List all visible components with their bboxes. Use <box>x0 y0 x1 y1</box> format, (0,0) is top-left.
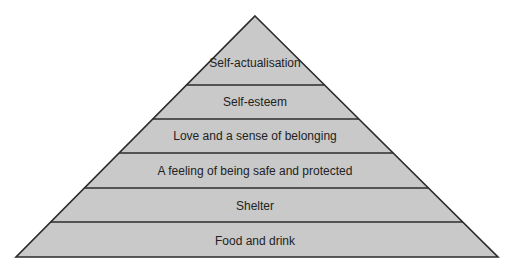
level-label-shelter: Shelter <box>236 199 274 213</box>
hierarchy-pyramid: Self-actualisation Self-esteem Love and … <box>0 0 516 274</box>
level-label-love-belonging: Love and a sense of belonging <box>173 129 336 143</box>
level-label-food-drink: Food and drink <box>215 234 296 248</box>
level-label-safety: A feeling of being safe and protected <box>158 164 353 178</box>
level-label-self-esteem: Self-esteem <box>223 95 287 109</box>
level-label-self-actualisation: Self-actualisation <box>209 56 300 70</box>
